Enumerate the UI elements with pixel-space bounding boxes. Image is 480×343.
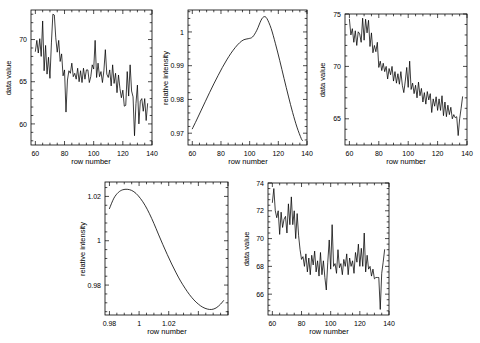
panel-5-yticklabel: 68 <box>256 263 264 270</box>
panel-5-yticklabel: 72 <box>256 207 264 214</box>
panel-5-yticklabel: 74 <box>256 180 264 187</box>
panel-5: 60801001201406668707274row numberdata va… <box>0 0 480 343</box>
panel-5-xticklabel: 120 <box>354 320 366 327</box>
panel-5-xticklabel: 80 <box>298 320 306 327</box>
panel-5-xlabel: row number <box>309 327 349 336</box>
panel-5-yticklabel: 70 <box>256 235 264 242</box>
panel-5-xticklabel: 100 <box>325 320 337 327</box>
panel-5-xticklabel: 60 <box>268 320 276 327</box>
panel-5-data-series <box>272 189 384 310</box>
panel-5-canvas: 60801001201406668707274row numberdata va… <box>0 0 480 343</box>
panel-5-yticklabel: 66 <box>256 291 264 298</box>
multi-panel-figure: 6080100120140606570row numberdata value6… <box>0 0 480 343</box>
panel-5-ylabel: data value <box>242 232 251 267</box>
panel-5-xticklabel: 140 <box>383 320 395 327</box>
